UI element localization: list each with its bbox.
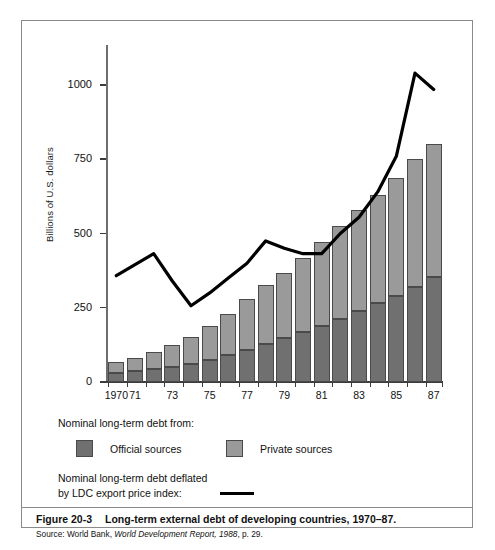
- y-axis-title: Billions of U.S. dollars: [44, 120, 55, 270]
- x-tick-mark: [314, 382, 315, 387]
- legend-label-private: Private sources: [260, 443, 332, 455]
- x-tick-mark: [332, 382, 333, 387]
- official-sources-swatch: [76, 440, 93, 457]
- legend-label-line-2: by LDC export price index:: [58, 486, 458, 501]
- legend-line-sample: [220, 492, 254, 495]
- x-tick-mark: [351, 382, 352, 387]
- figure-title: Long-term external debt of developing co…: [105, 513, 396, 525]
- x-tick-label: 79: [264, 389, 304, 401]
- legend-heading: Nominal long-term debt from:: [58, 417, 458, 429]
- caption-source-line: Source: World Bank, World Development Re…: [36, 529, 462, 539]
- caption-divider: [22, 507, 472, 508]
- source-prefix: Source: World Bank,: [36, 529, 114, 539]
- x-tick-label: 85: [376, 389, 416, 401]
- legend-label-official: Official sources: [110, 443, 182, 455]
- figure-frame: Billions of U.S. dollars 02505007501000 …: [21, 20, 473, 528]
- x-tick-label: 87: [414, 389, 454, 401]
- x-tick-mark: [258, 382, 259, 387]
- x-tick-mark: [108, 382, 109, 387]
- x-tick-mark: [146, 382, 147, 387]
- x-tick-mark: [370, 382, 371, 387]
- y-tick-label: 750: [58, 152, 92, 164]
- x-tick-label: 75: [190, 389, 230, 401]
- chart-legend: Nominal long-term debt from: Official so…: [58, 417, 458, 500]
- chart-plot-area: Billions of U.S. dollars 02505007501000 …: [22, 21, 474, 399]
- legend-entry-official: Official sources: [76, 440, 182, 457]
- x-tick-mark: [407, 382, 408, 387]
- source-suffix: , p. 29.: [237, 529, 262, 539]
- y-tick-label: 0: [58, 375, 92, 387]
- x-tick-mark: [388, 382, 389, 387]
- x-tick-label: 81: [302, 389, 342, 401]
- legend-label-line-1: Nominal long-term debt deflated: [58, 471, 458, 486]
- legend-swatch-row: Official sources Private sources: [58, 440, 458, 462]
- y-tick-label: 500: [58, 227, 92, 239]
- caption-title-line: Figure 20-3Long-term external debt of de…: [36, 513, 462, 525]
- legend-entry-line: Nominal long-term debt deflated by LDC e…: [58, 471, 458, 500]
- figure-number: Figure 20-3: [36, 513, 92, 525]
- figure-caption: Figure 20-3Long-term external debt of de…: [36, 513, 462, 539]
- x-tick-label: 73: [152, 389, 192, 401]
- x-tick-mark: [202, 382, 203, 387]
- x-tick-mark: [127, 382, 128, 387]
- x-tick-label: 83: [339, 389, 379, 401]
- x-tick-mark: [183, 382, 184, 387]
- x-tick-mark: [426, 382, 427, 387]
- x-tick-mark: [442, 382, 443, 387]
- y-tick-label: 1000: [58, 78, 92, 90]
- x-tick-mark: [295, 382, 296, 387]
- x-tick-label: 71: [115, 389, 155, 401]
- deflated-debt-line: [116, 73, 433, 306]
- y-tick-label: 250: [58, 301, 92, 313]
- line-series-layer: [107, 21, 443, 382]
- source-publication: World Development Report, 1988: [114, 529, 237, 539]
- x-tick-mark: [164, 382, 165, 387]
- x-tick-label: 77: [227, 389, 267, 401]
- x-tick-mark: [220, 382, 221, 387]
- x-tick-mark: [276, 382, 277, 387]
- x-tick-mark: [239, 382, 240, 387]
- legend-entry-private: Private sources: [226, 440, 332, 457]
- private-sources-swatch: [226, 440, 243, 457]
